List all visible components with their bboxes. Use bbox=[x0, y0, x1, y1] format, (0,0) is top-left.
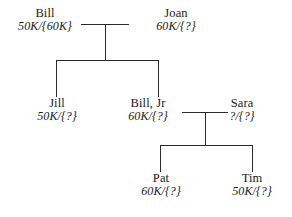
person-node-pat: Pat 60K/{?} bbox=[141, 171, 181, 198]
person-value-bill: 50K/{60K} bbox=[18, 20, 72, 33]
person-name-bill-jr: Bill, Jr bbox=[128, 96, 168, 110]
person-node-jill: Jill 50K/{?} bbox=[37, 96, 77, 123]
person-name-tim: Tim bbox=[232, 171, 272, 185]
family-tree-diagram: Bill 50K/{60K} Joan 60K/{?} Jill 50K/{?}… bbox=[0, 0, 292, 217]
person-value-sara: ?/{?} bbox=[229, 110, 254, 123]
person-value-tim: 50K/{?} bbox=[232, 185, 272, 198]
child-stem-tim bbox=[252, 145, 253, 172]
person-value-joan: 60K/{?} bbox=[156, 20, 196, 33]
person-value-pat: 60K/{?} bbox=[141, 185, 181, 198]
sibling-bar-generation-3 bbox=[160, 145, 252, 146]
person-name-bill: Bill bbox=[18, 6, 72, 20]
person-value-bill-jr: 60K/{?} bbox=[128, 110, 168, 123]
person-node-joan: Joan 60K/{?} bbox=[156, 6, 196, 33]
person-name-jill: Jill bbox=[37, 96, 77, 110]
person-node-sara: Sara ?/{?} bbox=[229, 96, 254, 123]
child-stem-pat bbox=[160, 145, 161, 172]
descent-stem-bill-jr-sara bbox=[205, 112, 206, 145]
person-value-jill: 50K/{?} bbox=[37, 110, 77, 123]
person-name-pat: Pat bbox=[141, 171, 181, 185]
child-stem-bill-jr bbox=[158, 60, 159, 97]
descent-stem-bill-joan bbox=[105, 24, 106, 60]
person-name-joan: Joan bbox=[156, 6, 196, 20]
person-name-sara: Sara bbox=[229, 96, 254, 110]
person-node-tim: Tim 50K/{?} bbox=[232, 171, 272, 198]
person-node-bill: Bill 50K/{60K} bbox=[18, 6, 72, 33]
sibling-bar-generation-2 bbox=[56, 60, 158, 61]
child-stem-jill bbox=[56, 60, 57, 97]
person-node-bill-jr: Bill, Jr 60K/{?} bbox=[128, 96, 168, 123]
